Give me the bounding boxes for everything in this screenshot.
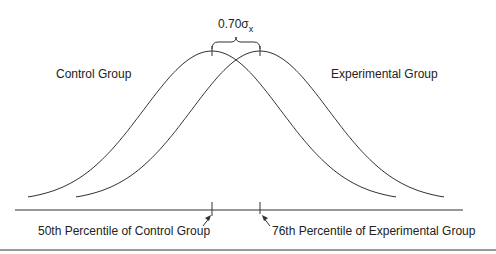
effect-brace xyxy=(212,37,260,49)
right-pointer-arrow xyxy=(262,215,270,226)
control-group-label: Control Group xyxy=(56,67,132,81)
experimental-group-label: Experimental Group xyxy=(331,67,438,81)
effect-size-diagram: 0.70σx Control Group Experimental Group … xyxy=(0,0,496,254)
control-percentile-label: 50th Percentile of Control Group xyxy=(38,224,210,238)
experimental-percentile-label: 76th Percentile of Experimental Group xyxy=(272,224,476,238)
effect-size-label: 0.70σx xyxy=(218,17,254,34)
